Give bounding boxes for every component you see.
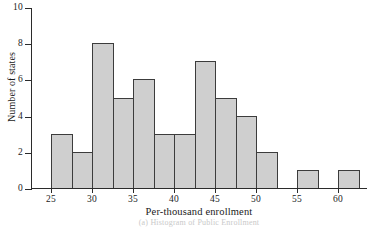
histogram-bar	[154, 134, 175, 189]
x-tick-50	[256, 188, 257, 193]
histogram-bar	[51, 134, 72, 189]
x-tick-55	[297, 188, 298, 193]
y-axis-label: Number of states	[7, 27, 17, 147]
x-tick-label-30: 30	[77, 194, 107, 204]
x-tick-label-25: 25	[36, 194, 66, 204]
x-axis-label: Per-thousand enrollment	[31, 206, 367, 217]
histogram-bar	[133, 79, 154, 189]
x-tick-label-35: 35	[118, 194, 148, 204]
y-tick-8	[25, 44, 32, 45]
histogram-bar	[338, 170, 359, 189]
histogram-figure: 0246810 2530354045505560 Number of state…	[0, 0, 372, 227]
x-tick-label-40: 40	[159, 194, 189, 204]
x-tick-40	[174, 188, 175, 193]
y-tick-6	[25, 80, 32, 81]
histogram-bar	[236, 116, 257, 189]
x-tick-60	[338, 188, 339, 193]
x-tick-label-50: 50	[241, 194, 271, 204]
y-tick-label-0: 0	[0, 184, 23, 194]
x-tick-30	[92, 188, 93, 193]
histogram-bar	[174, 134, 195, 189]
x-tick-35	[133, 188, 134, 193]
histogram-bar	[72, 152, 93, 189]
plot-area	[31, 8, 367, 189]
x-tick-label-60: 60	[323, 194, 353, 204]
y-tick-label-10: 10	[0, 3, 23, 13]
y-axis-line	[31, 8, 32, 189]
x-tick-45	[215, 188, 216, 193]
y-tick-2	[25, 153, 32, 154]
y-tick-label-2: 2	[0, 148, 23, 158]
histogram-bar	[92, 43, 113, 189]
histogram-bar	[256, 152, 277, 189]
x-tick-label-45: 45	[200, 194, 230, 204]
y-tick-0	[25, 189, 32, 190]
y-tick-10	[25, 8, 32, 9]
histogram-bar	[195, 61, 216, 189]
x-axis-line	[31, 188, 367, 189]
histogram-bar	[113, 98, 134, 190]
histogram-bar	[297, 170, 318, 189]
x-tick-25	[51, 188, 52, 193]
figure-caption: (a) Histogram of Public Enrollment	[31, 219, 367, 227]
histogram-bar	[215, 98, 236, 190]
x-tick-label-55: 55	[282, 194, 312, 204]
y-tick-4	[25, 117, 32, 118]
